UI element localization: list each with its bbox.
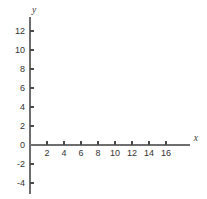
x-tick-label: 8 [95, 148, 100, 158]
y-tick-label: 8 [20, 64, 25, 74]
x-tick-label: 6 [78, 148, 83, 158]
y-tick-label: 4 [20, 102, 25, 112]
y-tick-label: 0 [20, 140, 25, 150]
y-tick-label: 2 [20, 121, 25, 131]
x-axis-label: x [193, 133, 199, 143]
y-tick-label: 10 [15, 45, 25, 55]
x-tick-label: 12 [127, 148, 137, 158]
chart-canvas: 246810121416-4-2024681012xy [0, 0, 207, 199]
x-tick-label: 2 [44, 148, 49, 158]
coordinate-plane-chart: 246810121416-4-2024681012xy [0, 0, 207, 199]
x-tick-label: 10 [110, 148, 120, 158]
y-tick-label: -4 [17, 178, 25, 188]
x-tick-label: 14 [144, 148, 154, 158]
y-axis-label: y [31, 5, 37, 15]
y-tick-label: 12 [15, 26, 25, 36]
y-tick-label: 6 [20, 83, 25, 93]
x-tick-label: 16 [161, 148, 171, 158]
x-tick-label: 4 [61, 148, 66, 158]
y-tick-label: -2 [17, 159, 25, 169]
